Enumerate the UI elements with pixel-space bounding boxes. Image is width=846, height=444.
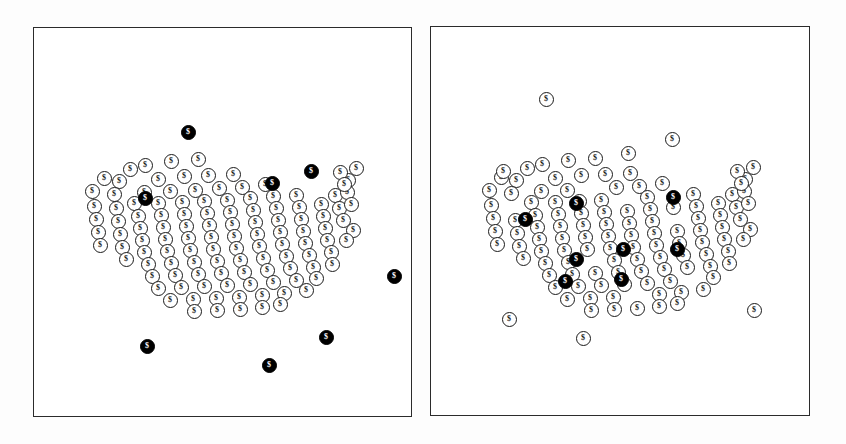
dollar-glyph: $	[648, 205, 652, 213]
dollar-glyph: $	[156, 175, 160, 183]
open-dollar-token: $	[339, 233, 354, 248]
open-dollar-token: $	[233, 302, 248, 317]
dollar-glyph: $	[720, 223, 724, 231]
dollar-glyph: $	[284, 252, 288, 260]
dollar-glyph: $	[102, 174, 106, 182]
right-panel: $$$$$$$$$$$$$$$$$$$$$$$$$$$$$$$$$$$$$$$$…	[430, 26, 810, 416]
dollar-glyph: $	[392, 272, 396, 280]
dollar-glyph: $	[654, 241, 658, 249]
open-dollar-token: $	[623, 166, 638, 181]
dollar-glyph: $	[304, 286, 308, 294]
dollar-glyph: $	[278, 228, 282, 236]
dollar-glyph: $	[650, 217, 654, 225]
dollar-glyph: $	[186, 234, 190, 242]
dollar-glyph: $	[574, 255, 578, 263]
dollar-glyph: $	[118, 230, 122, 238]
dollar-glyph: $	[191, 295, 195, 303]
dollar-glyph: $	[739, 179, 743, 187]
dollar-glyph: $	[238, 305, 242, 313]
dollar-glyph: $	[514, 176, 518, 184]
dollar-glyph: $	[685, 263, 689, 271]
dollar-glyph: $	[248, 280, 252, 288]
dollar-glyph: $	[537, 235, 541, 243]
dollar-glyph: $	[248, 194, 252, 202]
dollar-glyph: $	[611, 293, 615, 301]
dollar-glyph: $	[294, 276, 298, 284]
dollar-glyph: $	[271, 278, 275, 286]
dollar-glyph: $	[543, 259, 547, 267]
dollar-glyph: $	[606, 232, 610, 240]
open-dollar-token: $	[107, 187, 122, 202]
dollar-glyph: $	[351, 226, 355, 234]
dollar-glyph: $	[342, 180, 346, 188]
dollar-glyph: $	[581, 334, 585, 342]
dollar-glyph: $	[626, 149, 630, 157]
dollar-glyph: $	[727, 259, 731, 267]
open-dollar-token: $	[560, 183, 575, 198]
dollar-glyph: $	[196, 270, 200, 278]
dollar-glyph: $	[94, 215, 98, 223]
dollar-glyph: $	[253, 218, 257, 226]
dollar-glyph: $	[349, 200, 353, 208]
filled-dollar-token: $	[558, 274, 573, 289]
dollar-glyph: $	[294, 191, 298, 199]
left-panel-plot: $$$$$$$$$$$$$$$$$$$$$$$$$$$$$$$$$$$$$$$$…	[34, 28, 411, 416]
dollar-glyph: $	[267, 361, 271, 369]
dollar-glyph: $	[722, 235, 726, 243]
dollar-glyph: $	[675, 227, 679, 235]
open-dollar-token: $	[574, 168, 589, 183]
dollar-glyph: $	[625, 207, 629, 215]
dollar-glyph: $	[114, 204, 118, 212]
filled-dollar-token: $	[670, 242, 685, 257]
dollar-glyph: $	[242, 268, 246, 276]
dollar-glyph: $	[311, 263, 315, 271]
dollar-glyph: $	[698, 226, 702, 234]
dollar-glyph: $	[645, 193, 649, 201]
open-dollar-token: $	[571, 279, 586, 294]
filled-dollar-token: $	[569, 196, 584, 211]
dollar-glyph: $	[307, 251, 311, 259]
dollar-glyph: $	[124, 255, 128, 263]
dollar-glyph: $	[612, 305, 616, 313]
dollar-glyph: $	[752, 306, 756, 314]
dollar-glyph: $	[182, 210, 186, 218]
open-dollar-token: $	[640, 276, 655, 291]
dollar-glyph: $	[297, 203, 301, 211]
filled-dollar-token: $	[569, 252, 584, 267]
dollar-glyph: $	[230, 220, 234, 228]
dollar-glyph: $	[556, 210, 560, 218]
open-dollar-token: $	[243, 277, 258, 292]
dollar-glyph: $	[603, 170, 607, 178]
dollar-glyph: $	[169, 259, 173, 267]
dollar-glyph: $	[165, 247, 169, 255]
open-dollar-token: $	[561, 153, 576, 168]
dollar-glyph: $	[621, 245, 625, 253]
dollar-glyph: $	[539, 247, 543, 255]
dollar-glyph: $	[319, 200, 323, 208]
dollar-glyph: $	[117, 177, 121, 185]
open-dollar-token: $	[560, 292, 575, 307]
dollar-glyph: $	[156, 284, 160, 292]
open-dollar-token: $	[734, 176, 749, 191]
dollar-glyph: $	[225, 281, 229, 289]
open-dollar-token: $	[163, 184, 178, 199]
dollar-glyph: $	[140, 236, 144, 244]
dollar-glyph: $	[583, 233, 587, 241]
filled-dollar-token: $	[666, 190, 681, 205]
dollar-glyph: $	[501, 167, 505, 175]
dollar-glyph: $	[738, 215, 742, 223]
dollar-glyph: $	[193, 186, 197, 194]
open-dollar-token: $	[630, 301, 645, 316]
dollar-glyph: $	[325, 236, 329, 244]
dollar-glyph: $	[574, 199, 578, 207]
dollar-glyph: $	[579, 171, 583, 179]
dollar-glyph: $	[168, 296, 172, 304]
dollar-glyph: $	[741, 235, 745, 243]
open-dollar-token: $	[85, 184, 100, 199]
open-dollar-token: $	[482, 183, 497, 198]
dollar-glyph: $	[192, 258, 196, 266]
dollar-glyph: $	[563, 277, 567, 285]
open-dollar-token: $	[273, 297, 288, 312]
dollar-glyph: $	[675, 245, 679, 253]
dollar-glyph: $	[196, 155, 200, 163]
